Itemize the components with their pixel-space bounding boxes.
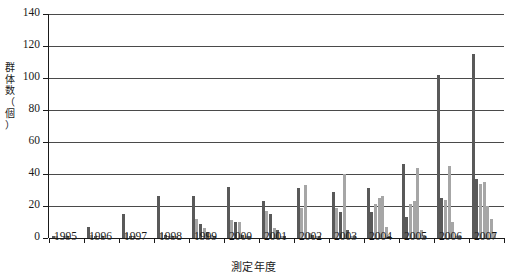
bar-group-2002 xyxy=(294,14,329,238)
y-axis-title-char-5: ） xyxy=(2,120,18,132)
bar-group-1997 xyxy=(119,14,154,238)
y-tick-mark-140 xyxy=(43,14,48,15)
y-tick-mark-100 xyxy=(43,78,48,79)
x-tick-label-1995: 1995 xyxy=(46,230,86,242)
bar-group-1995 xyxy=(49,14,84,238)
y-tick-mark-40 xyxy=(43,174,48,175)
bar-chart: 群 体 数 （ 個 ） 020406080100120140 199519961… xyxy=(0,0,507,279)
bar-2007-1 xyxy=(472,54,475,238)
x-tick-label-2002: 2002 xyxy=(291,230,331,242)
x-tick-label-2006: 2006 xyxy=(431,230,471,242)
bar-group-2006 xyxy=(434,14,469,238)
y-tick-mark-60 xyxy=(43,142,48,143)
bar-group-1998 xyxy=(154,14,189,238)
bar-group-2001 xyxy=(259,14,294,238)
bar-group-1999 xyxy=(189,14,224,238)
bar-group-1996 xyxy=(84,14,119,238)
bars-layer xyxy=(49,14,504,238)
y-tick-label-40: 40 xyxy=(6,166,40,178)
x-tick-label-2004: 2004 xyxy=(361,230,401,242)
x-tick-label-2003: 2003 xyxy=(326,230,366,242)
y-tick-label-60: 60 xyxy=(6,134,40,146)
y-axis-title-char-2: 数 xyxy=(2,85,18,97)
bar-group-2004 xyxy=(364,14,399,238)
y-tick-label-0: 0 xyxy=(6,230,40,242)
y-tick-label-100: 100 xyxy=(6,70,40,82)
y-tick-label-120: 120 xyxy=(6,38,40,50)
plot-area xyxy=(48,14,504,238)
y-tick-mark-80 xyxy=(43,110,48,111)
x-tick-label-1998: 1998 xyxy=(151,230,191,242)
y-tick-label-80: 80 xyxy=(6,102,40,114)
x-tick-label-2005: 2005 xyxy=(396,230,436,242)
bar-2006-1 xyxy=(437,75,440,238)
x-tick-label-2000: 2000 xyxy=(221,230,261,242)
bar-2005-5 xyxy=(416,168,419,238)
y-tick-label-20: 20 xyxy=(6,198,40,210)
x-tick-label-1999: 1999 xyxy=(186,230,226,242)
x-tick-label-2007: 2007 xyxy=(466,230,506,242)
bar-2005-1 xyxy=(402,164,405,238)
x-axis-title: 測定年度 xyxy=(0,258,507,274)
y-tick-mark-120 xyxy=(43,46,48,47)
y-tick-label-140: 140 xyxy=(6,6,40,18)
bar-2003-4 xyxy=(343,174,346,238)
bar-group-2000 xyxy=(224,14,259,238)
bar-2006-4 xyxy=(448,166,451,238)
bar-group-2007 xyxy=(469,14,504,238)
y-tick-mark-20 xyxy=(43,206,48,207)
bar-group-2005 xyxy=(399,14,434,238)
x-tick-label-1996: 1996 xyxy=(81,230,121,242)
x-tick-label-2001: 2001 xyxy=(256,230,296,242)
x-tick-label-1997: 1997 xyxy=(116,230,156,242)
bar-group-2003 xyxy=(329,14,364,238)
